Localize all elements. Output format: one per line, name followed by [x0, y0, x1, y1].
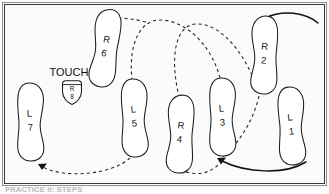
- footprint-r6: R 6: [84, 7, 127, 89]
- footprint-l7-number: 7: [27, 121, 33, 132]
- badge-foot: R: [70, 85, 75, 92]
- badge-number: 8: [70, 93, 74, 100]
- footprint-l3-number: 3: [219, 116, 225, 127]
- caption-strip: PRACTICE II: STEPS: [5, 186, 185, 194]
- touch-annotation: TOUCH: [50, 66, 89, 78]
- footprint-r4-foot: R: [177, 119, 185, 131]
- caption-text: PRACTICE II: STEPS: [5, 186, 185, 194]
- footprint-r2-number: 2: [260, 54, 266, 65]
- footprint-l3: L 3: [205, 77, 239, 157]
- footprint-r4: R 4: [162, 94, 199, 175]
- footprint-l5: L 5: [117, 78, 153, 158]
- path-l5-to-l7: [38, 158, 130, 174]
- footprint-r4-number: 4: [176, 133, 182, 144]
- footprint-l5-number: 5: [131, 117, 137, 128]
- footprint-diagram-canvas: L 7 R 6 L 5 R 4 L 3 R: [0, 0, 329, 194]
- footprint-l3-foot: L: [218, 102, 224, 113]
- footprint-l7: L 7: [13, 82, 47, 162]
- touch-badge-r8: R 8: [63, 81, 82, 105]
- footprint-l1: L 1: [273, 86, 310, 167]
- footprint-r2: R 2: [247, 15, 283, 95]
- footprint-l1-number: 1: [288, 125, 294, 136]
- footprint-l5-foot: L: [130, 103, 136, 114]
- footprint-l7-foot: L: [26, 107, 32, 118]
- touch-label: TOUCH: [50, 66, 89, 78]
- footprint-r2-foot: R: [261, 40, 269, 52]
- footprint-diagram: L 7 R 6 L 5 R 4 L 3 R: [0, 0, 329, 194]
- footprint-l1-foot: L: [287, 111, 293, 122]
- path-l3-to-r6-crossing: [131, 20, 220, 80]
